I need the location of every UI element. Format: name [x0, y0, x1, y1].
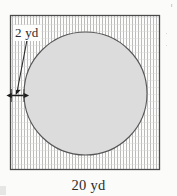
geometry-figure: 2 yd 20 yd	[0, 0, 177, 196]
square-side-label: 20 yd	[0, 178, 177, 193]
scan-artifact	[166, 33, 167, 34]
border-width-label: 2 yd	[13, 25, 41, 41]
scan-artifact	[166, 45, 167, 46]
inscribed-circle	[24, 32, 147, 155]
scan-artifact	[171, 4, 172, 7]
